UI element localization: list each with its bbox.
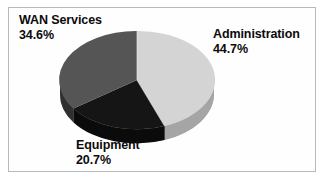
pie-label-equipment-percent: 20.7%: [76, 153, 140, 168]
pie-label-wan-services: WAN Services 34.6%: [19, 13, 102, 42]
pie-label-administration: Administration 44.7%: [213, 27, 300, 56]
pie-label-equipment-name: Equipment: [76, 138, 140, 152]
pie-label-administration-name: Administration: [213, 27, 300, 41]
pie-label-wan-services-percent: 34.6%: [19, 28, 102, 43]
pie-label-equipment: Equipment 20.7%: [76, 138, 140, 167]
pie-label-administration-percent: 44.7%: [213, 42, 300, 57]
pie-label-wan-services-name: WAN Services: [19, 13, 102, 27]
